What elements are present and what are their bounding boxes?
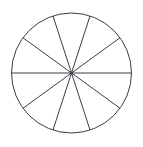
fraction-circle-diagram <box>0 0 143 147</box>
circle-center-point <box>70 71 73 74</box>
fraction-circle-figure <box>0 0 143 147</box>
